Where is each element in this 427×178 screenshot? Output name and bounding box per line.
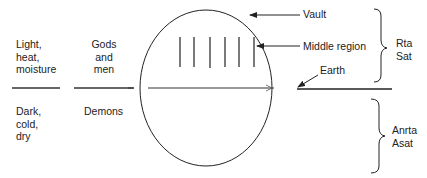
middle-region-label: Middle region [303, 40, 366, 53]
middle-region-strokes [180, 37, 254, 68]
light-heat-moisture-label: Light, heat, moisture [16, 38, 56, 76]
upper-brace [374, 9, 387, 82]
rta-sat-label: Rta Sat [396, 37, 412, 62]
gods-and-men-label: Gods and men [86, 38, 122, 76]
cosmology-diagram [0, 0, 427, 178]
dark-cold-dry-label: Dark, cold, dry [16, 105, 41, 143]
anrta-asat-label: Anrta Asat [392, 124, 417, 149]
earth-label: Earth [320, 64, 345, 77]
lower-brace [371, 99, 385, 173]
demons-label: Demons [84, 105, 123, 118]
vault-label: Vault [303, 8, 326, 21]
earth-arrow [298, 75, 318, 87]
